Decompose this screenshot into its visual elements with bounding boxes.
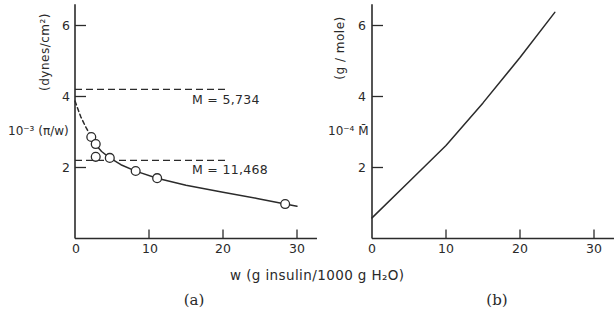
panel-a-ytick-2: 2 (62, 162, 70, 175)
figure: (dynes/cm²) 10⁻³ (π/w) 6 4 2 0 10 20 30 … (0, 0, 616, 322)
panel-a-data-point (153, 174, 162, 183)
panel-a-tag: (a) (184, 293, 205, 308)
panel-a-xtick-30: 30 (289, 243, 305, 256)
panel-b-xtick-30: 30 (586, 243, 602, 256)
panel-a-xtick-10: 10 (142, 243, 158, 256)
panel-a-ylabel-main: 10⁻³ (π/w) (8, 125, 69, 137)
panel-a-xtick-0: 0 (72, 243, 80, 256)
panel-b-xtick-0: 0 (368, 243, 376, 256)
reference-label-monomer: M = 5,734 (192, 94, 260, 107)
panel-b-series-line (372, 12, 555, 218)
panel-a-ylabel-units: (dynes/cm²) (39, 13, 51, 91)
panel-a-data-point (281, 200, 290, 209)
x-axis-label: w (g insulin/1000 g H₂O) (230, 269, 405, 283)
panel-a-series-line (75, 101, 91, 137)
panel-b-ytick-4: 4 (358, 91, 366, 104)
panel-a-data-point (91, 140, 100, 149)
panel-b-xtick-20: 20 (512, 243, 528, 256)
panel-a-data-point (91, 152, 100, 161)
panel-b-ylabel-units: (g / mole) (334, 16, 346, 79)
panel-a-ytick-6: 6 (62, 20, 70, 33)
panel-b-ytick-2: 2 (358, 162, 366, 175)
panel-a-xtick-20: 20 (215, 243, 231, 256)
panel-b-ylabel-main: 10⁻⁴ M̄ (328, 125, 369, 137)
panel-a-data-point (105, 154, 114, 163)
panel-a-data-point (131, 167, 140, 176)
panel-a-ytick-4: 4 (62, 91, 70, 104)
panel-b-ytick-6: 6 (358, 20, 366, 33)
panel-b-xtick-10: 10 (438, 243, 454, 256)
reference-label-dimer: M = 11,468 (192, 164, 268, 177)
panel-b-tag: (b) (486, 293, 507, 308)
